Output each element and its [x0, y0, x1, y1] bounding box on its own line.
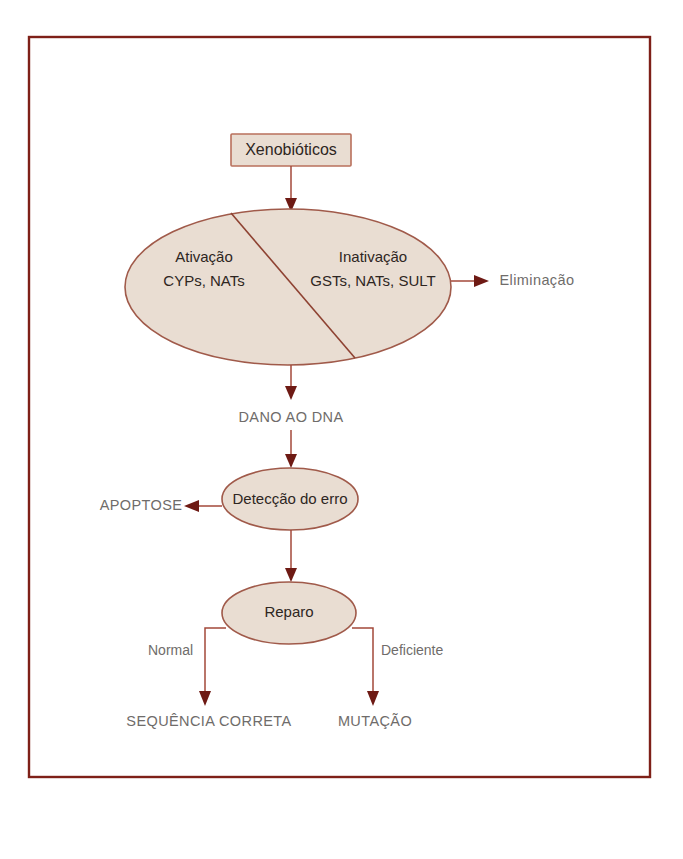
error-detection-label: Detecção do erro: [232, 490, 347, 507]
inactivation-label-line2: GSTs, NATs, SULT: [310, 272, 435, 289]
xenobiotics-box-label: Xenobióticos: [245, 141, 337, 158]
connector-repair-to-correct-sequence: [199, 628, 226, 706]
flowchart-canvas: Xenobióticos Ativação CYPs, NATs Inativa…: [0, 0, 683, 859]
arrow-head-icon: [285, 454, 297, 468]
connector-metabolism-to-dna-damage: [285, 365, 297, 400]
connector-metabolism-to-elimination: [451, 275, 489, 287]
deficient-edge-label: Deficiente: [381, 642, 443, 658]
connector-detection-to-repair: [285, 530, 297, 582]
connector-repair-to-mutation: [352, 628, 379, 706]
elimination-label: Eliminação: [500, 272, 575, 288]
normal-edge-label: Normal: [148, 642, 193, 658]
inactivation-label-line1: Inativação: [339, 248, 407, 265]
mutation-label: MUTAÇÃO: [338, 713, 412, 729]
figure-root: Xenobióticos Ativação CYPs, NATs Inativa…: [0, 0, 683, 859]
correct-sequence-label: SEQUÊNCIA CORRETA: [126, 713, 291, 729]
arrow-head-icon: [285, 386, 297, 400]
dna-damage-label: DANO AO DNA: [238, 409, 343, 425]
repair-label: Reparo: [264, 603, 313, 620]
arrow-head-icon: [199, 691, 211, 706]
apoptosis-label: APOPTOSE: [100, 497, 183, 513]
activation-label-line2: CYPs, NATs: [163, 272, 244, 289]
connector-dna-damage-to-detection: [285, 430, 297, 468]
activation-label-line1: Ativação: [175, 248, 233, 265]
arrow-head-icon: [474, 275, 489, 287]
arrow-head-icon: [184, 500, 199, 512]
connector-xenobiotics-to-metabolism: [285, 166, 297, 212]
arrow-head-icon: [367, 691, 379, 706]
arrow-head-icon: [285, 568, 297, 582]
connector-detection-to-apoptosis: [184, 500, 222, 512]
